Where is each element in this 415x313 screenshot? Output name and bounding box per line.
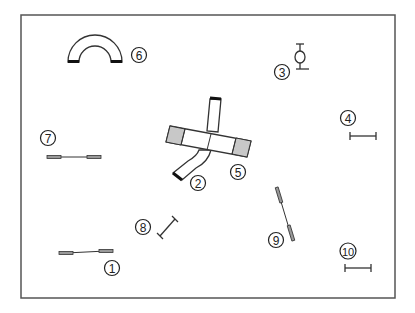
number-badge-7: 7 [41,131,56,146]
agility-course-diagram: 6 3 4 7 [0,0,415,313]
number-badge-10: 10 [340,243,356,259]
number-badge-5: 5 [231,165,246,180]
number-badge-8: 8 [136,220,151,235]
obstacle-label: 2 [195,177,202,191]
obstacle-label: 4 [345,112,352,126]
number-badge-1: 1 [105,261,120,276]
obstacle-label: 1 [109,262,116,276]
obstacle-label: 6 [136,49,143,63]
obstacle-label: 9 [273,234,280,248]
number-badge-6: 6 [132,48,147,63]
obstacle-label: 7 [45,132,52,146]
number-badge-9: 9 [269,233,284,248]
obstacle-label: 3 [279,66,286,80]
obstacle-label: 5 [235,166,242,180]
obstacle-label: 10 [342,246,354,258]
number-badge-4: 4 [341,111,356,126]
number-badge-2: 2 [191,176,206,191]
number-badge-3: 3 [275,65,290,80]
obstacle-label: 8 [140,221,147,235]
